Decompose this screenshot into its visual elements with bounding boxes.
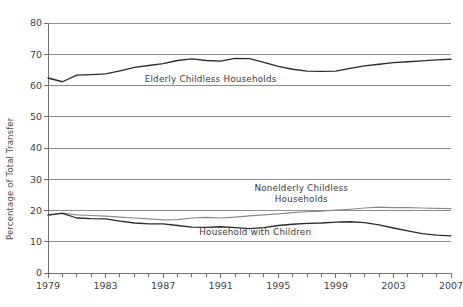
- series-line-1: [48, 207, 451, 220]
- x-tick-label-1987: 1987: [151, 280, 175, 291]
- x-tick-label-2003: 2003: [381, 280, 405, 291]
- data-series: [48, 58, 451, 236]
- y-tick-label-10: 10: [30, 236, 42, 247]
- x-axis-tick-labels: 19791983198719911995199920032007: [36, 280, 463, 291]
- y-tick-label-40: 40: [30, 142, 42, 153]
- x-tick-label-1995: 1995: [266, 280, 290, 291]
- y-axis-tick-labels: 01020304050607080: [30, 17, 42, 278]
- series-annotations: Elderly Childless HouseholdsNonelderly C…: [145, 74, 349, 237]
- y-tick-label-50: 50: [30, 111, 42, 122]
- y-tick-label-60: 60: [30, 80, 42, 91]
- y-tick-label-0: 0: [36, 267, 42, 278]
- axis-ticks: [44, 23, 451, 278]
- series-annotation-1-line2: Households: [275, 194, 328, 204]
- series-annotation-0: Elderly Childless Households: [145, 74, 277, 84]
- x-tick-label-1991: 1991: [209, 280, 233, 291]
- x-tick-label-2007: 2007: [439, 280, 463, 291]
- chart-container: 01020304050607080 1979198319871991199519…: [0, 0, 463, 307]
- x-tick-label-1999: 1999: [324, 280, 348, 291]
- series-annotation-1: Nonelderly Childless: [254, 183, 348, 193]
- gridlines: [48, 23, 451, 242]
- y-tick-label-80: 80: [30, 17, 42, 28]
- x-tick-label-1983: 1983: [93, 280, 117, 291]
- y-tick-label-30: 30: [30, 174, 42, 185]
- series-annotation-2: Household with Children: [199, 227, 311, 237]
- line-chart: 01020304050607080 1979198319871991199519…: [0, 0, 463, 307]
- x-tick-label-1979: 1979: [36, 280, 60, 291]
- y-axis-title: Percentage of Total Transfer: [5, 117, 15, 240]
- y-tick-label-70: 70: [30, 49, 42, 60]
- y-tick-label-20: 20: [30, 205, 42, 216]
